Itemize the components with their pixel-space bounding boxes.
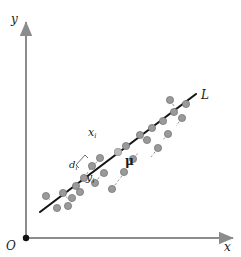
- data-point: [64, 202, 71, 209]
- data-point: [182, 100, 189, 107]
- mean-point-marker: [114, 148, 121, 155]
- origin-label: O: [6, 240, 16, 252]
- distance-bracket-path: [76, 155, 88, 168]
- label-d-i: di: [69, 160, 77, 170]
- label-y-i: yi: [86, 172, 94, 183]
- data-point: [178, 114, 185, 121]
- data-point: [42, 192, 49, 199]
- data-point: [88, 162, 95, 169]
- data-point: [143, 136, 150, 143]
- mean-label-mu: μ: [125, 155, 134, 167]
- label-d-i-subscript: i: [75, 164, 77, 171]
- data-point: [154, 144, 161, 151]
- data-point: [166, 96, 173, 103]
- data-point: [170, 108, 177, 115]
- distance-bracket: [76, 155, 88, 168]
- data-point: [136, 131, 143, 138]
- mean-point-mu: [114, 148, 121, 155]
- data-point: [68, 194, 75, 201]
- data-point: [148, 124, 155, 131]
- diagram-canvas: [0, 0, 241, 257]
- data-point: [120, 168, 127, 175]
- data-point: [96, 154, 103, 161]
- data-point: [59, 189, 66, 196]
- data-point: [76, 188, 83, 195]
- data-point: [53, 204, 60, 211]
- line-label-L: L: [201, 89, 209, 101]
- pca-projection-diagram: y x O L μ xi yi di: [0, 0, 241, 257]
- data-point: [122, 142, 129, 149]
- y-axis-label: y: [11, 13, 18, 25]
- label-x-i: xi: [88, 127, 96, 138]
- data-point: [159, 117, 166, 124]
- origin-dot: [23, 235, 29, 241]
- x-axis-label: x: [224, 241, 231, 253]
- data-point: [100, 169, 107, 176]
- data-point: [108, 185, 115, 192]
- data-point: [164, 130, 171, 137]
